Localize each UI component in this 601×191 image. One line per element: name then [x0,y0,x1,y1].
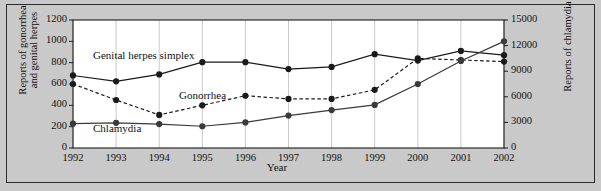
y-axis-right-tick-label: 15000 [511,13,557,24]
data-point [199,102,205,108]
y-axis-left-tick-label: 1200 [23,13,67,24]
data-point [113,97,119,103]
data-point [501,38,507,44]
data-point [501,52,507,58]
data-point [242,59,248,65]
data-point [285,96,291,102]
data-point [156,112,162,118]
y-axis-left-tick-label: 0 [23,141,67,152]
x-axis-tick-label: 1999 [355,152,395,163]
data-point [329,107,335,113]
y-axis-left-tick-label: 200 [23,120,67,131]
data-point [156,121,162,127]
data-point [285,66,291,72]
data-point [415,81,421,87]
data-point [199,123,205,129]
chart-figure: Reports of gonorrhea and genital herpes … [6,4,595,183]
data-point [70,81,76,87]
y-axis-left-tick-label: 600 [23,77,67,88]
x-axis-tick-label: 1992 [53,152,93,163]
data-point [458,58,464,64]
data-point [199,59,205,65]
data-point [70,121,76,127]
data-point [372,102,378,108]
y-axis-right-tick-label: 0 [511,141,557,152]
data-point [329,96,335,102]
x-axis-tick-label: 2000 [398,152,438,163]
data-point [70,72,76,78]
series-label-chlamydia: Chlamydia [93,122,141,134]
y-axis-left-tick-label: 800 [23,56,67,67]
series-label-gonorrhea: Gonorrhea [179,89,226,101]
y-axis-left-tick-label: 400 [23,98,67,109]
y-axis-right-tick-label: 12000 [511,39,557,50]
data-point [242,93,248,99]
data-point [501,59,507,65]
x-axis-tick-label: 1995 [182,152,222,163]
y-axis-right-tick-label: 9000 [511,64,557,75]
y-axis-right-tick-label: 6000 [511,90,557,101]
x-axis-tick-label: 1998 [312,152,352,163]
x-axis-tick-label: 2002 [484,152,524,163]
y-axis-right-tick-label: 3000 [511,115,557,126]
data-point [372,87,378,93]
series-label-genital-herpes-simplex: Genital herpes simplex [93,49,194,61]
data-point [242,119,248,125]
x-axis-tick-label: 1994 [139,152,179,163]
data-point [113,78,119,84]
y-axis-left-tick-label: 1000 [23,34,67,45]
data-point [458,48,464,54]
data-point [329,64,335,70]
data-point [415,55,421,61]
x-axis-tick-label: 2001 [441,152,481,163]
data-point [372,51,378,57]
data-point [156,71,162,77]
data-point [285,112,291,118]
x-axis-tick-label: 1997 [269,152,309,163]
x-axis-tick-label: 1996 [225,152,265,163]
x-axis-tick-label: 1993 [96,152,136,163]
